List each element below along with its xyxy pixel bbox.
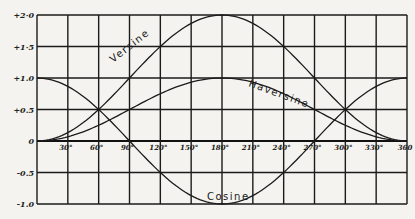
grid-lines [37, 15, 407, 204]
y-axis-tick-labels: +2·0+1·5+1.0+0.50-0.5-1.0 [13, 10, 34, 209]
x-tick-label: 240° [272, 143, 291, 152]
trig-functions-chart: +2·0+1·5+1.0+0.50-0.5-1.0 30°60°90°120°1… [0, 0, 415, 219]
x-tick-label: 30° [59, 143, 72, 152]
x-tick-label: 210° [241, 143, 260, 152]
x-tick-label: 150° [180, 143, 198, 152]
x-tick-label: 120° [149, 143, 167, 152]
y-tick-label: +2·0 [13, 10, 34, 20]
y-tick-label: -1.0 [17, 199, 35, 209]
x-tick-label: 180° [211, 143, 229, 152]
y-tick-label: 0 [28, 136, 34, 146]
y-tick-label: -0.5 [17, 168, 35, 178]
y-tick-label: +0.5 [13, 105, 34, 115]
haversine-label: Haversine [247, 78, 311, 110]
x-tick-label: 360 [398, 143, 413, 152]
x-tick-label: 300° [334, 143, 352, 152]
y-tick-label: +1·5 [13, 42, 34, 52]
x-tick-label: 330° [365, 143, 383, 152]
y-tick-label: +1.0 [13, 73, 34, 83]
x-axis-tick-labels: 30°60°90°120°150°180°210°240°270°300°330… [59, 143, 412, 152]
cosine-label: Cosine [207, 191, 250, 202]
x-tick-label: 60° [90, 143, 103, 152]
